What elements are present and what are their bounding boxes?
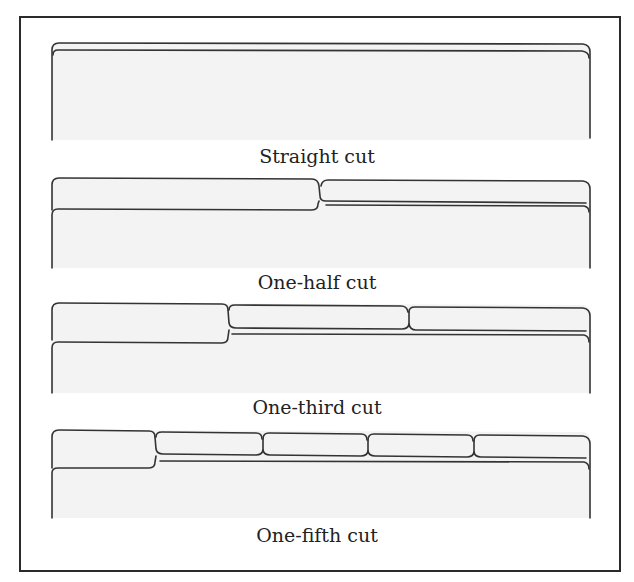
folder-one-half-cut <box>52 178 590 268</box>
label-one-fifth-cut: One-fifth cut <box>0 524 634 546</box>
label-straight-cut: Straight cut <box>0 145 634 167</box>
label-one-half-cut: One-half cut <box>0 271 634 293</box>
folder-straight-cut <box>52 43 590 140</box>
label-one-third-cut: One-third cut <box>0 396 634 418</box>
folder-cuts-diagram: Straight cut One-half cut One-third cut … <box>0 0 634 582</box>
folder-one-third-cut <box>52 303 590 393</box>
folder-one-fifth-cut <box>52 430 590 518</box>
